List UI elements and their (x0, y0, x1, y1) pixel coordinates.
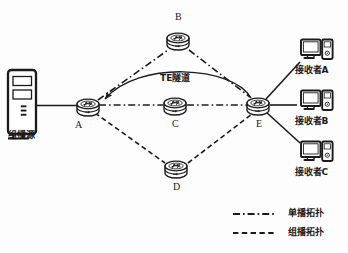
receiver-a-icon[interactable] (301, 40, 333, 60)
multicast-source-icon (8, 70, 36, 139)
link-D-to-E (188, 114, 252, 163)
router-C-icon[interactable] (164, 98, 186, 115)
legend-unicast-label: 单播拓扑 (288, 209, 324, 218)
router-B-label: B (175, 12, 182, 22)
receiver-b-label: 接收者B (295, 117, 328, 126)
multicast-source-label: 组播源 (8, 131, 34, 140)
link-A-to-D (95, 113, 165, 163)
router-E-label: E (256, 119, 262, 129)
receiver-b-icon[interactable] (301, 91, 333, 111)
receiver-c-icon[interactable] (301, 142, 333, 162)
receiver-c-label: 接收者C (295, 168, 328, 177)
te-tunnel-label: TE隧道 (160, 74, 190, 83)
router-A-icon[interactable] (77, 99, 99, 116)
router-C-label: C (172, 119, 179, 129)
router-E-icon[interactable] (247, 98, 269, 115)
receiver-a-label: 接收者A (295, 66, 328, 75)
router-D-icon[interactable] (165, 161, 187, 178)
link-A-to-B (98, 50, 168, 100)
diagram-canvas: 组播源 A B C D E TE隧道 接收者A 接收者B 接收者C 单播拓扑 组… (0, 0, 348, 253)
legend-multicast-label: 组播拓扑 (288, 228, 324, 237)
router-D-label: D (173, 182, 180, 192)
router-B-icon[interactable] (167, 33, 189, 50)
router-A-label: A (75, 120, 82, 130)
